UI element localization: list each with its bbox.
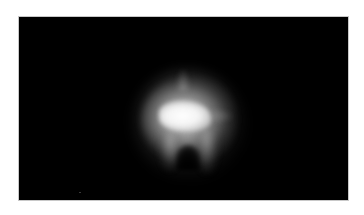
glow-spike-right	[211, 109, 233, 123]
glow-spike-top	[176, 69, 190, 91]
image-frame	[18, 16, 349, 201]
glow-core	[159, 101, 211, 131]
noise-speck	[79, 192, 81, 193]
dark-notch	[176, 145, 200, 171]
